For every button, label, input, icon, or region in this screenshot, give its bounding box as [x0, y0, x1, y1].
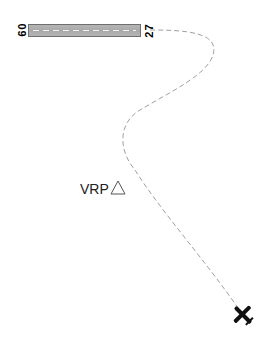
- triangle-icon: [110, 180, 126, 196]
- approach-diagram: 09 27 VRP: [0, 0, 275, 340]
- runway: [28, 24, 141, 37]
- airplane-icon: [228, 300, 258, 330]
- runway-designator-right: 27: [144, 23, 155, 39]
- runway-designator-left: 09: [16, 23, 27, 39]
- vrp-label: VRP: [80, 181, 109, 197]
- flight-path: [0, 0, 275, 340]
- runway-centerline: [33, 30, 136, 31]
